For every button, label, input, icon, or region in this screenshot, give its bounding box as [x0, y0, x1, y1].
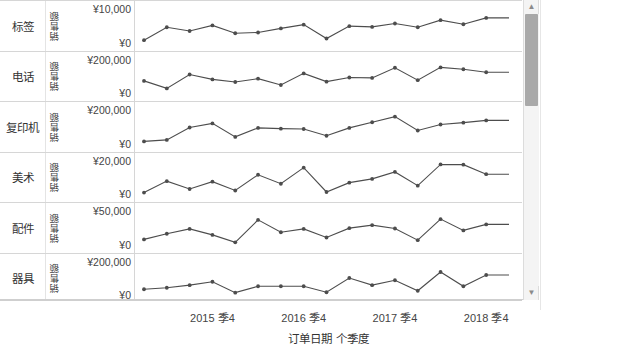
data-point-mark[interactable]	[347, 75, 351, 79]
data-point-mark[interactable]	[211, 233, 215, 237]
data-point-mark[interactable]	[484, 16, 488, 20]
data-point-mark[interactable]	[279, 26, 283, 30]
data-point-mark[interactable]	[325, 79, 329, 83]
data-point-mark[interactable]	[393, 278, 397, 282]
data-point-mark[interactable]	[142, 237, 146, 241]
data-point-mark[interactable]	[165, 179, 169, 183]
row-measure-label[interactable]: 销售额	[46, 102, 63, 152]
data-point-mark[interactable]	[233, 31, 237, 35]
y-axis[interactable]: ¥20,000¥0	[63, 153, 135, 203]
data-point-mark[interactable]	[416, 25, 420, 29]
data-point-mark[interactable]	[211, 23, 215, 27]
data-point-mark[interactable]	[325, 190, 329, 194]
panel-plot[interactable]	[135, 52, 522, 102]
data-point-mark[interactable]	[142, 287, 146, 291]
data-point-mark[interactable]	[439, 217, 443, 221]
y-axis[interactable]: ¥200,000¥0	[63, 102, 135, 152]
data-point-mark[interactable]	[211, 77, 215, 81]
data-point-mark[interactable]	[279, 181, 283, 185]
data-point-mark[interactable]	[461, 228, 465, 232]
data-point-mark[interactable]	[370, 120, 374, 124]
data-point-mark[interactable]	[461, 162, 465, 166]
row-category-label[interactable]: 电话	[0, 52, 46, 102]
data-point-mark[interactable]	[347, 24, 351, 28]
y-axis[interactable]: ¥10,000¥0	[63, 1, 135, 51]
panel-plot[interactable]	[135, 1, 522, 51]
data-point-mark[interactable]	[484, 273, 488, 277]
data-point-mark[interactable]	[233, 135, 237, 139]
data-point-mark[interactable]	[188, 283, 192, 287]
data-point-mark[interactable]	[165, 138, 169, 142]
data-point-mark[interactable]	[302, 165, 306, 169]
data-point-mark[interactable]	[461, 67, 465, 71]
vertical-scrollbar[interactable]: ▲ ▼	[523, 0, 539, 300]
data-point-mark[interactable]	[256, 76, 260, 80]
row-measure-label[interactable]: 销售额	[46, 254, 63, 301]
y-axis[interactable]: ¥200,000¥0	[63, 254, 135, 301]
data-point-mark[interactable]	[279, 83, 283, 87]
data-point-mark[interactable]	[233, 240, 237, 244]
data-point-mark[interactable]	[302, 23, 306, 27]
data-point-mark[interactable]	[165, 25, 169, 29]
data-point-mark[interactable]	[256, 284, 260, 288]
scrollbar-track[interactable]	[524, 14, 539, 286]
data-point-mark[interactable]	[325, 134, 329, 138]
data-point-mark[interactable]	[370, 25, 374, 29]
data-point-mark[interactable]	[484, 118, 488, 122]
x-axis-title[interactable]: 订单日期 个季度	[135, 330, 522, 346]
data-point-mark[interactable]	[439, 270, 443, 274]
data-point-mark[interactable]	[188, 126, 192, 130]
data-point-mark[interactable]	[370, 223, 374, 227]
data-point-mark[interactable]	[256, 218, 260, 222]
data-point-mark[interactable]	[439, 123, 443, 127]
scroll-down-arrow-icon[interactable]: ▼	[524, 286, 539, 300]
data-point-mark[interactable]	[484, 222, 488, 226]
data-point-mark[interactable]	[233, 290, 237, 294]
data-point-mark[interactable]	[393, 170, 397, 174]
data-point-mark[interactable]	[347, 276, 351, 280]
data-point-mark[interactable]	[416, 238, 420, 242]
row-measure-label[interactable]: 销售额	[46, 203, 63, 253]
row-measure-label[interactable]: 销售额	[46, 1, 63, 51]
y-axis[interactable]: ¥50,000¥0	[63, 203, 135, 253]
data-point-mark[interactable]	[142, 38, 146, 42]
data-point-mark[interactable]	[302, 127, 306, 131]
row-category-label[interactable]: 标签	[0, 1, 46, 51]
data-point-mark[interactable]	[439, 18, 443, 22]
data-point-mark[interactable]	[461, 22, 465, 26]
data-point-mark[interactable]	[347, 126, 351, 130]
row-category-label[interactable]: 配件	[0, 203, 46, 253]
data-point-mark[interactable]	[302, 227, 306, 231]
row-measure-label[interactable]: 销售额	[46, 153, 63, 203]
data-point-mark[interactable]	[142, 139, 146, 143]
data-point-mark[interactable]	[279, 127, 283, 131]
row-measure-label[interactable]: 销售额	[46, 52, 63, 102]
data-point-mark[interactable]	[279, 230, 283, 234]
scrollbar-thumb[interactable]	[525, 14, 538, 106]
data-point-mark[interactable]	[416, 288, 420, 292]
row-category-label[interactable]: 复印机	[0, 102, 46, 152]
data-point-mark[interactable]	[347, 180, 351, 184]
data-point-mark[interactable]	[461, 284, 465, 288]
data-point-mark[interactable]	[142, 78, 146, 82]
data-point-mark[interactable]	[302, 284, 306, 288]
data-point-mark[interactable]	[370, 283, 374, 287]
data-point-mark[interactable]	[188, 72, 192, 76]
data-point-mark[interactable]	[142, 190, 146, 194]
data-point-mark[interactable]	[256, 31, 260, 35]
data-point-mark[interactable]	[188, 29, 192, 33]
data-point-mark[interactable]	[439, 65, 443, 69]
data-point-mark[interactable]	[393, 65, 397, 69]
data-point-mark[interactable]	[256, 126, 260, 130]
data-point-mark[interactable]	[165, 232, 169, 236]
data-point-mark[interactable]	[279, 284, 283, 288]
data-point-mark[interactable]	[393, 227, 397, 231]
scroll-up-arrow-icon[interactable]: ▲	[524, 0, 539, 14]
data-point-mark[interactable]	[347, 226, 351, 230]
data-point-mark[interactable]	[188, 187, 192, 191]
panel-plot[interactable]	[135, 254, 522, 301]
data-point-mark[interactable]	[439, 162, 443, 166]
data-point-mark[interactable]	[461, 121, 465, 125]
data-point-mark[interactable]	[370, 75, 374, 79]
data-point-mark[interactable]	[416, 183, 420, 187]
